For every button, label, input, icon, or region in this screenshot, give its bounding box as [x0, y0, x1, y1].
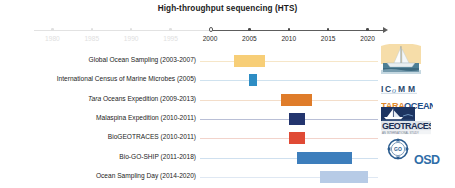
row-label-geotraces: BioGEOTRACES (2010-2011)	[108, 133, 196, 140]
row-baseline	[200, 61, 378, 62]
osd-logo: OSD	[414, 152, 444, 166]
axis-tick-label-2020: 2020	[353, 35, 383, 42]
svg-text:o: o	[392, 86, 396, 95]
hts-expedition-timeline-figure: High-throughput sequencing (HTS) 1980198…	[0, 0, 455, 188]
axis-tick-label-1995: 1995	[156, 35, 186, 42]
svg-text:GEOTRACES: GEOTRACES	[382, 121, 431, 131]
row-label-bio-go-ship: Bio-GO-SHIP (2011-2018)	[119, 153, 196, 160]
axis-tick-1985	[91, 28, 94, 31]
row-label-italic-prefix: Tara	[88, 95, 101, 102]
bio-go-ship-logo: GO	[385, 137, 411, 163]
axis-tick-label-1990: 1990	[116, 35, 146, 42]
global-ocean-sampling-logo	[381, 44, 421, 74]
axis-tick-label-1985: 1985	[77, 35, 107, 42]
axis-tick-label-2000: 2000	[195, 35, 225, 42]
axis-tick-label-1980: 1980	[37, 35, 67, 42]
timeline-bar	[289, 132, 305, 144]
svg-text:M: M	[398, 84, 405, 94]
malaspina-logo	[381, 107, 415, 122]
axis-tick-2020	[366, 28, 369, 31]
axis-line-faded	[34, 30, 210, 31]
svg-text:GO: GO	[394, 146, 402, 152]
svg-text:OSD: OSD	[414, 153, 440, 167]
axis-tick-1995	[169, 28, 172, 31]
timeline-row: Ocean Sampling Day (2014-2020)	[0, 168, 455, 187]
axis-tick-label-2015: 2015	[313, 35, 343, 42]
svg-text:C: C	[385, 84, 391, 94]
timeline-bar	[249, 74, 257, 86]
svg-text:AN INTERNATIONAL STUDY: AN INTERNATIONAL STUDY	[382, 131, 419, 135]
axis-tick-2010	[288, 28, 291, 31]
svg-text:I: I	[381, 84, 383, 94]
row-label-tara-oceans: Tara Oceans Expedition (2009-2013)	[88, 95, 196, 102]
svg-text:M: M	[408, 84, 415, 94]
axis-tick-2000	[209, 27, 214, 32]
axis-tick-label-2005: 2005	[234, 35, 264, 42]
row-label-osd: Ocean Sampling Day (2014-2020)	[96, 172, 196, 179]
axis-line	[210, 30, 383, 31]
icomm-logo: I C o M M	[381, 84, 429, 94]
timeline-bar	[281, 94, 313, 106]
timeline-bar	[297, 152, 352, 164]
row-label-rest: Oceans Expedition (2009-2013)	[103, 95, 196, 102]
timeline-bar	[320, 171, 367, 183]
row-baseline	[200, 80, 378, 81]
timeline-axis: 198019851990199520002005201020152020	[0, 22, 455, 46]
page-title: High-throughput sequencing (HTS)	[0, 4, 455, 13]
timeline-bar	[289, 113, 305, 125]
axis-tick-label-2010: 2010	[274, 35, 304, 42]
axis-tick-1980	[51, 28, 54, 31]
row-label-icomm: International Census of Marine Microbes …	[57, 75, 196, 82]
axis-arrow-icon	[383, 27, 388, 33]
axis-tick-2005	[248, 28, 251, 31]
geotraces-logo: GEOTRACES AN INTERNATIONAL STUDY	[381, 121, 431, 135]
row-label-malaspina: Malaspina Expedition (2010-2011)	[96, 114, 196, 121]
timeline-bar	[234, 55, 266, 67]
row-label-global-ocean-sampling: Global Ocean Sampling (2003-2007)	[89, 56, 196, 63]
